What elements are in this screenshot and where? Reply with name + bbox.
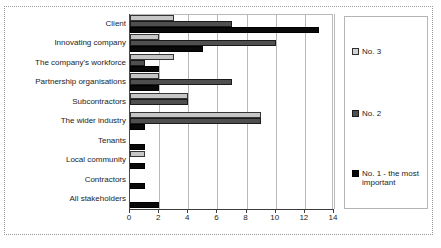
chart-bar xyxy=(130,99,188,105)
legend-label: No. 3 xyxy=(362,47,381,56)
x-axis-tick-label: 2 xyxy=(156,213,160,222)
category-label: The wider industry xyxy=(61,116,126,125)
gridline xyxy=(334,14,335,209)
chart-category-group xyxy=(130,92,333,112)
bar-chart-figure: ClientInnovating companyThe company's wo… xyxy=(0,0,441,248)
chart-bar xyxy=(130,66,159,72)
legend-entry[interactable]: No. 3 xyxy=(352,47,381,56)
x-axis-tick-label: 0 xyxy=(127,213,131,222)
chart-bar xyxy=(130,46,203,52)
legend-swatch-icon xyxy=(352,110,359,117)
category-label: Client xyxy=(106,19,126,28)
legend: No. 3No. 2No. 1 - the most important xyxy=(344,16,428,209)
chart-category-group xyxy=(130,190,333,210)
chart-bar xyxy=(130,144,145,150)
category-label: Innovating company xyxy=(54,38,126,47)
category-label: Subcontractors xyxy=(72,97,126,106)
x-axis-tick-label: 6 xyxy=(214,213,218,222)
legend-swatch-icon xyxy=(352,48,359,55)
x-axis-tick-label: 14 xyxy=(329,213,338,222)
chart-bar xyxy=(130,118,261,124)
category-label: Local community xyxy=(66,155,126,164)
chart-category-group xyxy=(130,53,333,73)
x-axis-line xyxy=(129,209,334,210)
category-label: All stakeholders xyxy=(70,194,126,203)
chart-bar xyxy=(130,183,145,189)
chart-category-group xyxy=(130,131,333,151)
category-label: The company's workforce xyxy=(35,58,126,67)
x-axis-tick-labels: 02468101214 xyxy=(129,213,334,227)
chart-bar xyxy=(130,163,145,169)
chart-bar xyxy=(130,124,145,130)
legend-entry[interactable]: No. 2 xyxy=(352,109,381,118)
x-axis-tick-label: 8 xyxy=(243,213,247,222)
chart-category-group xyxy=(130,14,333,34)
x-axis-tick-label: 12 xyxy=(299,213,308,222)
chart-bar xyxy=(130,85,159,91)
plot-area xyxy=(129,14,333,209)
chart-category-group xyxy=(130,112,333,132)
chart-category-group xyxy=(130,34,333,54)
chart-category-group xyxy=(130,151,333,171)
legend-label: No. 2 xyxy=(362,109,381,118)
chart-category-group xyxy=(130,170,333,190)
chart-bar xyxy=(130,27,319,33)
category-label: Partnership organisations xyxy=(35,77,126,86)
category-label: Contractors xyxy=(85,175,126,184)
chart-bar xyxy=(130,202,159,208)
x-axis-tick-label: 4 xyxy=(185,213,189,222)
category-label: Tenants xyxy=(98,136,126,145)
category-axis-labels: ClientInnovating companyThe company's wo… xyxy=(0,14,126,209)
chart-bar xyxy=(130,151,145,157)
x-axis-tick-label: 10 xyxy=(270,213,279,222)
chart-category-group xyxy=(130,73,333,93)
legend-swatch-icon xyxy=(352,170,359,177)
legend-entry[interactable]: No. 1 - the most important xyxy=(352,169,424,187)
legend-label: No. 1 - the most important xyxy=(362,169,424,187)
